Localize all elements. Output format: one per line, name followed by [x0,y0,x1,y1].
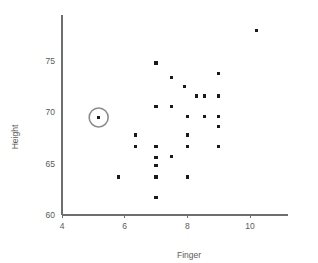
data-point-marker [186,145,189,148]
y-tick-label: 65 [46,159,56,169]
data-point-marker [154,175,157,178]
data-point-marker [217,115,220,118]
data-point-marker [97,116,100,119]
data-point-marker [217,125,220,128]
data-point-marker [134,145,137,148]
data-point-marker [154,61,157,64]
data-point-marker [217,72,220,75]
y-tick-label: 75 [46,56,56,66]
data-point-marker [170,76,173,79]
data-point-marker [203,94,206,97]
data-point-marker [154,196,157,199]
x-tick-label: 6 [122,221,127,231]
x-tick-label: 10 [245,221,255,231]
data-point-marker [255,29,258,32]
data-point-marker [195,94,198,97]
data-point-marker [154,105,157,108]
scatter-plot-figure: 46810 60657075 Finger Height [0,0,318,263]
y-axis-ticks: 60657075 [46,56,56,220]
x-tick-label: 8 [185,221,190,231]
y-tick-label: 70 [46,107,56,117]
data-point-marker [217,145,220,148]
data-point-marker [183,85,186,88]
data-points [89,29,258,200]
data-point-marker [186,175,189,178]
data-point-marker [154,156,157,159]
data-point-marker [170,155,173,158]
data-point-marker [217,94,220,97]
data-point-marker [186,133,189,136]
plot-canvas: 46810 60657075 Finger Height [0,0,318,263]
data-point-marker [134,133,137,136]
axes [62,15,288,215]
data-point-marker [154,145,157,148]
data-point-marker [117,175,120,178]
x-axis-ticks: 46810 [60,215,255,231]
data-point-marker [203,115,206,118]
x-tick-label: 4 [60,221,65,231]
data-point-marker [154,164,157,167]
data-point-marker [186,115,189,118]
y-axis-title: Height [10,124,20,149]
data-point-marker [170,105,173,108]
y-tick-label: 60 [46,210,56,220]
x-axis-title: Finger [177,250,201,260]
